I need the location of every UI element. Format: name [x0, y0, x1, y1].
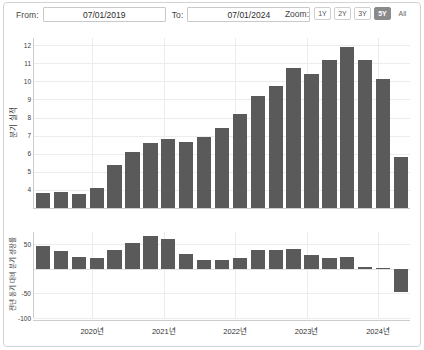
- x-axis-line: [33, 320, 410, 321]
- x-axis-tick-label: 2021년: [142, 327, 186, 336]
- y-axis-line: [33, 38, 34, 208]
- y-axis-tick-label: 10: [24, 78, 31, 85]
- revenue-bar[interactable]: [161, 139, 175, 208]
- growth-bar[interactable]: [54, 251, 68, 269]
- revenue-bar[interactable]: [376, 79, 390, 208]
- y-axis-tick-label: 4: [27, 186, 31, 193]
- zoom-button-5y[interactable]: 5Y: [374, 7, 391, 20]
- x-axis-tick-label: 2024년: [356, 327, 400, 336]
- gridline-horizontal: [34, 318, 410, 319]
- stock-financials-chart-widget: From: To: Zoom: 1Y2Y3Y5YAll 분기 실적 456789…: [0, 0, 424, 350]
- y-axis-tick-label: 5: [27, 168, 31, 175]
- chart-toolbar: From: To: Zoom: 1Y2Y3Y5YAll: [4, 3, 420, 29]
- yoy-growth-plot-area: [34, 232, 410, 318]
- growth-bar[interactable]: [72, 257, 86, 269]
- growth-bar[interactable]: [304, 255, 318, 269]
- growth-bar[interactable]: [143, 236, 157, 268]
- growth-bar[interactable]: [269, 250, 283, 269]
- y-axis-line: [33, 232, 34, 318]
- y-axis-tick-label: 11: [24, 60, 31, 67]
- revenue-bar[interactable]: [269, 86, 283, 208]
- revenue-bar[interactable]: [340, 47, 354, 208]
- revenue-bar[interactable]: [322, 60, 336, 208]
- quarterly-revenue-chart: 분기 실적 456789101112: [4, 30, 420, 228]
- growth-bar[interactable]: [90, 258, 104, 269]
- quarterly-revenue-y-axis-title: 분기 실적: [7, 93, 18, 153]
- growth-bar[interactable]: [36, 246, 50, 269]
- revenue-bar[interactable]: [358, 60, 372, 208]
- revenue-bar[interactable]: [286, 68, 300, 208]
- growth-bar[interactable]: [394, 269, 408, 292]
- growth-bar[interactable]: [215, 260, 229, 269]
- to-label: To:: [172, 10, 184, 20]
- growth-bar[interactable]: [125, 243, 139, 269]
- growth-bar[interactable]: [376, 268, 390, 269]
- gridline-vertical: [307, 232, 308, 318]
- growth-bar[interactable]: [161, 239, 175, 268]
- revenue-bar[interactable]: [143, 143, 157, 208]
- gridline-vertical: [235, 232, 236, 318]
- growth-bar[interactable]: [233, 258, 247, 269]
- x-axis-tick-label: 2022년: [213, 327, 257, 336]
- gridline-vertical: [92, 232, 93, 318]
- growth-bar[interactable]: [107, 250, 121, 269]
- revenue-bar[interactable]: [125, 152, 139, 208]
- growth-bar[interactable]: [286, 249, 300, 269]
- growth-bar[interactable]: [322, 258, 336, 269]
- revenue-bar[interactable]: [394, 157, 408, 208]
- zoom-controls: Zoom: 1Y2Y3Y5YAll: [285, 7, 411, 20]
- x-axis-line: [33, 208, 410, 209]
- yoy-growth-chart: 전년 동기 대비 분기 성장률 50-50-100: [4, 228, 420, 320]
- revenue-bar[interactable]: [251, 96, 265, 208]
- y-axis-tick-label: 12: [24, 42, 31, 49]
- zoom-button-group: 1Y2Y3Y5YAll: [314, 7, 411, 20]
- from-date-input[interactable]: [43, 7, 166, 22]
- revenue-bar[interactable]: [72, 194, 86, 208]
- revenue-bar[interactable]: [36, 193, 50, 208]
- y-axis-tick-label: 50: [24, 241, 31, 248]
- zoom-button-1y[interactable]: 1Y: [314, 7, 331, 20]
- x-axis-tick-label: 2023년: [285, 327, 329, 336]
- revenue-bar[interactable]: [54, 192, 68, 208]
- revenue-bar[interactable]: [215, 128, 229, 208]
- y-axis-tick-label: 8: [27, 114, 31, 121]
- gridline-horizontal: [34, 293, 410, 294]
- growth-bar[interactable]: [340, 257, 354, 269]
- zoom-button-all[interactable]: All: [394, 7, 411, 20]
- quarterly-revenue-plot-area: [34, 38, 410, 208]
- y-axis-tick-label: -50: [22, 290, 31, 297]
- gridline-vertical: [92, 38, 93, 208]
- y-axis-tick-label: 6: [27, 150, 31, 157]
- growth-bar[interactable]: [197, 260, 211, 269]
- revenue-bar[interactable]: [197, 137, 211, 208]
- x-axis: 2020년2021년2022년2023년2024년: [4, 320, 420, 346]
- revenue-bar[interactable]: [179, 142, 193, 208]
- zoom-button-3y[interactable]: 3Y: [354, 7, 371, 20]
- date-range-controls: From: To:: [16, 7, 310, 22]
- from-label: From:: [16, 10, 39, 20]
- y-axis-tick-label: 7: [27, 132, 31, 139]
- gridline-vertical: [378, 232, 379, 318]
- zoom-button-2y[interactable]: 2Y: [334, 7, 351, 20]
- x-axis-tick-label: 2020년: [70, 327, 114, 336]
- revenue-bar[interactable]: [90, 188, 104, 208]
- growth-bar[interactable]: [179, 254, 193, 269]
- y-axis-tick-label: 9: [27, 96, 31, 103]
- revenue-bar[interactable]: [233, 114, 247, 208]
- growth-bar[interactable]: [358, 267, 372, 268]
- revenue-bar[interactable]: [304, 74, 318, 208]
- zoom-label: Zoom:: [285, 9, 309, 19]
- growth-bar[interactable]: [251, 250, 265, 269]
- revenue-bar[interactable]: [107, 165, 121, 208]
- yoy-growth-y-axis-title: 전년 동기 대비 분기 성장률: [7, 236, 17, 312]
- zero-line: [34, 269, 410, 270]
- gridline-horizontal: [34, 244, 410, 245]
